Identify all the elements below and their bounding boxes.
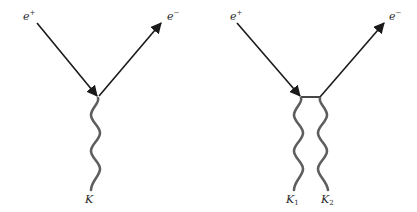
positron-line [37, 23, 97, 96]
boson-wave-k [91, 98, 100, 190]
label-electron: e− [167, 9, 180, 23]
boson-wave-k2 [318, 98, 328, 190]
label-boson-k: K [84, 193, 94, 206]
label-positron: e+ [23, 9, 36, 23]
label-boson-k2: K2 [320, 193, 334, 207]
diagram-two-boson: e+ e− K1 K2 [230, 9, 402, 207]
label-positron: e+ [230, 9, 243, 23]
electron-line [320, 23, 384, 97]
boson-wave-k1 [294, 98, 303, 190]
label-boson-k1: K1 [285, 193, 299, 207]
feynman-diagrams: e+ e− K e+ e− K1 K2 [0, 0, 417, 212]
label-electron: e− [389, 9, 402, 23]
diagram-single-boson: e+ e− K [23, 9, 180, 206]
positron-line [237, 23, 300, 96]
electron-line [99, 23, 161, 96]
